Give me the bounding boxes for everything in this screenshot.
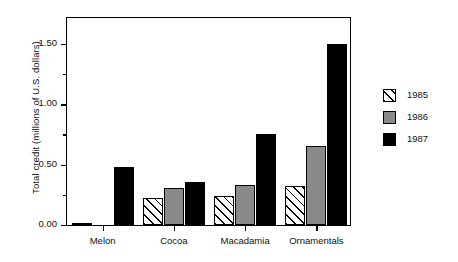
legend-item-1987: 1987 <box>383 130 458 152</box>
legend: 1985 1986 1987 <box>383 86 458 152</box>
legend-item-1985: 1985 <box>383 86 458 108</box>
x-tick-label: Ornamentals <box>271 235 361 246</box>
bar-cocoa-1985 <box>143 198 163 225</box>
bar-macadamia-1985 <box>214 196 234 225</box>
y-tick-label: 1.50 <box>21 37 57 48</box>
y-tick-label: 1.00 <box>21 97 57 108</box>
bar-cocoa-1987 <box>185 182 205 225</box>
y-tick-label: 0.00 <box>21 218 57 229</box>
bar-macadamia-1987 <box>256 134 276 225</box>
x-tick-mark <box>245 225 246 231</box>
y-tick-mark <box>61 104 67 105</box>
y-tick-mark <box>63 74 67 75</box>
x-tick-mark <box>103 225 104 231</box>
y-tick-mark <box>61 165 67 166</box>
bar-macadamia-1986 <box>235 185 255 225</box>
legend-label-1985: 1985 <box>407 89 428 100</box>
bar-melon-1987 <box>114 167 134 225</box>
x-tick-mark <box>174 225 175 231</box>
y-tick-mark <box>61 225 67 226</box>
legend-swatch-1986-icon <box>383 111 396 124</box>
bar-melon-1985 <box>72 223 92 225</box>
legend-item-1986: 1986 <box>383 108 458 130</box>
legend-label-1986: 1986 <box>407 111 428 122</box>
bar-cocoa-1986 <box>164 188 184 225</box>
bar-ornamentals-1985 <box>285 186 305 225</box>
bar-ornamentals-1986 <box>306 146 326 225</box>
bar-ornamentals-1987 <box>327 44 347 225</box>
bar-chart: Total credit (millions of U.S. dollars) … <box>0 0 458 262</box>
legend-swatch-1985-icon <box>383 89 396 102</box>
y-tick-mark <box>63 134 67 135</box>
y-tick-label: 0.50 <box>21 158 57 169</box>
y-tick-mark <box>63 195 67 196</box>
y-tick-mark <box>61 44 67 45</box>
plot-area: 0.000.501.001.50 MelonCocoaMacadamiaOrna… <box>66 17 351 226</box>
x-tick-mark <box>316 225 317 231</box>
legend-label-1987: 1987 <box>407 133 428 144</box>
legend-swatch-1987-icon <box>383 133 396 146</box>
